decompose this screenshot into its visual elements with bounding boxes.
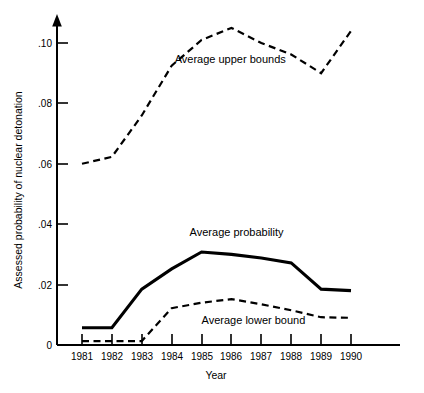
x-tick-label: 1989 (310, 351, 333, 362)
series-label-average-probability: Average probability (190, 226, 284, 238)
x-tick-label: 1985 (191, 351, 214, 362)
y-tick-label: .02 (38, 280, 52, 291)
y-tick-label: .06 (38, 159, 52, 170)
x-tick-label: 1990 (340, 351, 363, 362)
y-tick-label: .10 (38, 38, 52, 49)
x-tick-label: 1984 (161, 351, 184, 362)
x-axis-title: Year (205, 369, 227, 381)
x-tick-label: 1983 (131, 351, 154, 362)
y-tick-label: .04 (38, 219, 52, 230)
x-tick-label: 1987 (250, 351, 273, 362)
x-tick-label: 1988 (280, 351, 303, 362)
series-label-average-upper-bounds: Average upper bounds (175, 53, 287, 65)
y-tick-label: .08 (38, 98, 52, 109)
x-tick-label: 1981 (71, 351, 94, 362)
chart-container: .10 .08 .06 .04 .02 0 1981 1982 1983 198… (0, 0, 424, 393)
x-tick-label: 1982 (101, 351, 124, 362)
series-label-average-lower-bound: Average lower bound (202, 314, 306, 326)
x-tick-label: 1986 (220, 351, 243, 362)
line-chart: .10 .08 .06 .04 .02 0 1981 1982 1983 198… (0, 0, 424, 393)
y-axis-title: Assessed probability of nuclear detonati… (12, 91, 24, 288)
y-tick-label: 0 (46, 340, 52, 351)
